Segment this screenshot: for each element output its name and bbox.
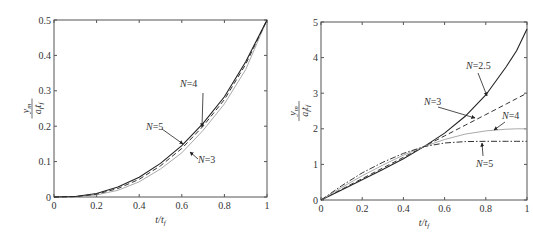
- series-N-5: [54, 20, 267, 197]
- y-tick-label: 4: [313, 52, 318, 63]
- series-N-4: [54, 20, 267, 197]
- y-tick-label: 1: [313, 159, 318, 170]
- y-tick-label: 0.2: [39, 121, 52, 132]
- x-tick-label: 0.6: [176, 200, 189, 211]
- chart-2: 00.20.40.60.81012345t/tfymaftfN=2.5N=3N=…: [287, 17, 530, 231]
- annotation-label: N=4: [501, 110, 519, 121]
- series-N-2-5: [321, 29, 527, 200]
- figure: 00.20.40.60.8100.10.20.30.40.5t/tfymaftf…: [0, 0, 533, 236]
- y-axis-label: ymaftf: [287, 101, 312, 121]
- y-tick-label: 2: [313, 123, 318, 134]
- chart-1: 00.20.40.60.8100.10.20.30.40.5t/tfymaftf…: [20, 15, 270, 228]
- y-tick-label: 3: [313, 88, 318, 99]
- annotation-label: N=5: [475, 158, 493, 169]
- x-tick-label: 0: [319, 203, 324, 214]
- y-tick-label: 0.3: [39, 85, 52, 96]
- y-tick-label: 0.4: [39, 50, 52, 61]
- annotation-label: N=3: [197, 154, 215, 165]
- series-N-4: [321, 129, 527, 200]
- annotation-label: N=3: [423, 96, 441, 107]
- series-N-5: [321, 141, 527, 200]
- x-tick-label: 0: [52, 200, 57, 211]
- svg-text:aftf: aftf: [299, 104, 312, 117]
- x-axis-label: t/tf: [155, 214, 166, 227]
- x-tick-label: 1: [525, 203, 530, 214]
- y-tick-label: 0: [46, 192, 51, 203]
- x-axis-label: t/tf: [419, 217, 430, 230]
- annotation-label: N=2.5: [465, 60, 491, 71]
- x-tick-label: 0.6: [438, 203, 451, 214]
- x-tick-label: 0.2: [90, 200, 103, 211]
- series-N-3: [54, 20, 267, 197]
- plot-frame: [54, 20, 267, 197]
- y-tick-label: 0: [313, 195, 318, 206]
- y-tick-label: 5: [313, 17, 318, 28]
- annotation-label: N=4: [179, 78, 197, 89]
- x-tick-label: 1: [265, 200, 270, 211]
- x-tick-label: 0.8: [480, 203, 493, 214]
- svg-text:aftf: aftf: [32, 102, 45, 115]
- y-axis-label: ymaftf: [20, 99, 45, 119]
- y-tick-label: 0.5: [39, 15, 52, 26]
- annotation-label: N=5: [145, 121, 163, 132]
- x-tick-label: 0.4: [133, 200, 146, 211]
- x-tick-label: 0.2: [356, 203, 369, 214]
- x-tick-label: 0.4: [397, 203, 410, 214]
- y-tick-label: 0.1: [39, 156, 52, 167]
- plot-frame: [321, 22, 527, 200]
- x-tick-label: 0.8: [218, 200, 231, 211]
